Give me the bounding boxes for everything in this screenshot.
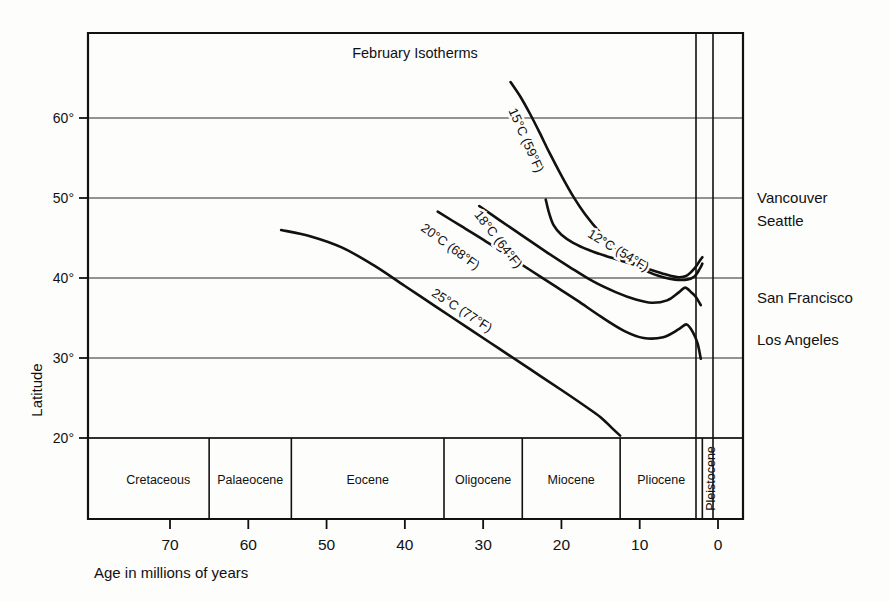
x-tick-label-50: 50 — [318, 536, 336, 553]
isotherm-label-15c: 15°C (59°F) — [506, 106, 548, 175]
x-tick-label-40: 40 — [396, 536, 414, 553]
annotation-los-angeles: Los Angeles — [757, 331, 839, 348]
x-tick-marks-group — [170, 519, 718, 529]
isotherm-label-12c: 12°C (54°F) — [585, 226, 652, 274]
y-axis-label: Latitude — [28, 363, 45, 416]
isotherm-curve-25c — [281, 230, 620, 436]
epoch-label-miocene: Miocene — [548, 473, 595, 487]
x-tick-label-10: 10 — [631, 536, 649, 553]
figure-root: 20°30°40°50°60° CretaceousPalaeoceneEoce… — [0, 0, 889, 601]
chart-title: February Isotherms — [352, 45, 478, 61]
epoch-label-eocene: Eocene — [346, 473, 388, 487]
x-tick-label-60: 60 — [240, 536, 258, 553]
y-tick-label-50: 50° — [53, 190, 74, 206]
x-tick-label-30: 30 — [475, 536, 493, 553]
x-tick-label-0: 0 — [714, 536, 723, 553]
gridlines-group — [88, 118, 743, 438]
epoch-label-pleistocene: Pleistocene — [704, 446, 718, 511]
x-tick-label-20: 20 — [553, 536, 571, 553]
y-tick-label-60: 60° — [53, 110, 74, 126]
epoch-label-palaeocene: Palaeocene — [217, 473, 283, 487]
epoch-label-oligocene: Oligocene — [455, 473, 511, 487]
y-tick-label-30: 30° — [53, 350, 74, 366]
x-axis-label: Age in millions of years — [94, 564, 248, 581]
x-tick-labels-group: 706050403020100 — [161, 536, 722, 553]
annotation-seattle: Seattle — [757, 212, 804, 229]
y-tick-label-20: 20° — [53, 430, 74, 446]
y-tick-labels-group: 20°30°40°50°60° — [53, 110, 74, 446]
y-tick-label-40: 40° — [53, 270, 74, 286]
isotherm-curve-20c — [438, 212, 701, 359]
x-tick-label-70: 70 — [161, 536, 179, 553]
isotherm-label-20c: 20°C (68°F) — [418, 220, 483, 273]
annotation-san-francisco: San Francisco — [757, 289, 853, 306]
epoch-labels-group: CretaceousPalaeoceneEoceneOligoceneMioce… — [126, 446, 718, 511]
epoch-label-cretaceous: Cretaceous — [126, 473, 190, 487]
isotherm-chart: 20°30°40°50°60° CretaceousPalaeoceneEoce… — [0, 0, 889, 601]
epoch-label-pliocene: Pliocene — [637, 473, 685, 487]
annotation-vancouver: Vancouver — [757, 189, 828, 206]
plot-frame — [88, 33, 743, 519]
